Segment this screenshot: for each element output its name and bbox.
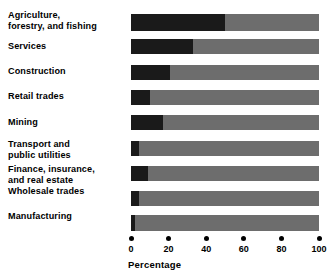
category-label: Services — [8, 41, 126, 52]
bar-row — [131, 215, 319, 231]
bar-row — [131, 191, 319, 206]
bar-value-segment — [131, 215, 135, 231]
bar-row — [131, 14, 319, 31]
axis-tick-dot — [317, 236, 322, 241]
category-label: Finance, insurance, and real estate — [8, 164, 126, 185]
category-label: Transport and public utilities — [8, 139, 126, 160]
bar-value-segment — [131, 90, 150, 105]
bar-row — [131, 115, 319, 130]
axis-tick-label: 60 — [239, 244, 249, 254]
bar-row — [131, 90, 319, 105]
category-label: Mining — [8, 117, 126, 128]
category-label: Agriculture, forestry, and fishing — [8, 10, 126, 31]
category-label-column: Agriculture, forestry, and fishingServic… — [0, 0, 126, 235]
axis-tick-dot — [129, 236, 134, 241]
horizontal-bar-chart: Agriculture, forestry, and fishingServic… — [0, 0, 332, 280]
bar-value-segment — [131, 141, 139, 156]
axis-tick-label: 40 — [201, 244, 211, 254]
bar-remainder-segment — [131, 191, 319, 206]
category-label: Construction — [8, 66, 126, 77]
axis-tick-dot — [241, 236, 246, 241]
axis-tick-label: 0 — [128, 244, 133, 254]
bar-value-segment — [131, 115, 163, 130]
bar-remainder-segment — [131, 215, 319, 231]
bar-value-segment — [131, 166, 148, 181]
category-label: Manufacturing — [8, 211, 126, 222]
plot-area — [131, 0, 319, 235]
bar-row — [131, 166, 319, 181]
axis-tick-dot — [204, 236, 209, 241]
axis-tick-dot — [166, 236, 171, 241]
bar-row — [131, 39, 319, 54]
bar-row — [131, 65, 319, 80]
bar-row — [131, 141, 319, 156]
axis-tick-label: 100 — [311, 244, 326, 254]
bar-value-segment — [131, 39, 193, 54]
category-label: Wholesale trades — [8, 186, 126, 197]
axis-tick-label: 80 — [276, 244, 286, 254]
x-axis-title: Percentage — [128, 259, 181, 270]
bar-remainder-segment — [131, 90, 319, 105]
bar-value-segment — [131, 191, 139, 206]
bar-remainder-segment — [131, 141, 319, 156]
category-label: Retail trades — [8, 91, 126, 102]
bar-remainder-segment — [131, 166, 319, 181]
axis-tick-dot — [279, 236, 284, 241]
bar-value-segment — [131, 65, 170, 80]
bar-value-segment — [131, 14, 225, 31]
axis-tick-label: 20 — [164, 244, 174, 254]
